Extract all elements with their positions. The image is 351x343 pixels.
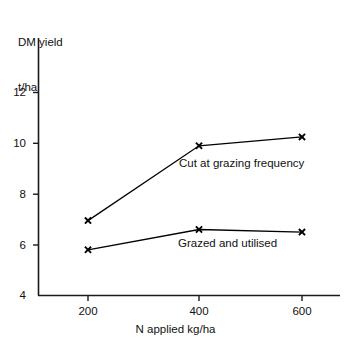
y-tick-label-4: 4 — [4, 289, 26, 301]
x-tick-label-200: 200 — [68, 305, 108, 317]
x-tick-label-600: 600 — [282, 305, 322, 317]
y-tick-label-8: 8 — [4, 188, 26, 200]
series-annotation-cut-at-grazing-frequency: Cut at grazing frequency — [179, 157, 304, 169]
data-point-marker — [85, 218, 91, 224]
y-axis-title-line1: DM yield — [18, 35, 63, 50]
x-tick-label-400: 400 — [179, 305, 219, 317]
series-annotation-grazed-and-utilised: Grazed and utilised — [178, 237, 277, 249]
y-tick-label-6: 6 — [4, 239, 26, 251]
y-axis-title: DM yield t/ha — [18, 5, 63, 125]
x-axis-title: N applied kg/ha — [0, 322, 351, 337]
series-layer — [85, 134, 305, 253]
y-tick-label-10: 10 — [4, 137, 26, 149]
y-tick-label-12: 12 — [4, 86, 26, 98]
chart-figure: DM yield t/ha N applied kg/ha 12 10 8 6 … — [0, 0, 351, 343]
series-line-0 — [88, 137, 302, 221]
